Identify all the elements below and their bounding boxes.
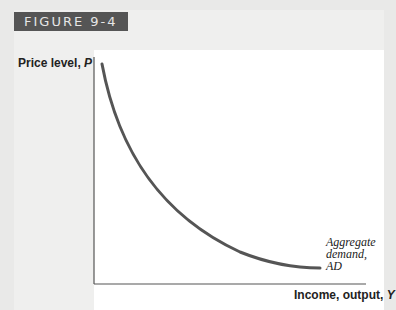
aggregate-demand-curve (102, 64, 320, 268)
curve-label-line: AD (326, 260, 376, 272)
x-axis-label: Income, output, Y (294, 288, 395, 302)
curve-label: Aggregate demand, AD (326, 236, 376, 272)
y-axis-label: Price level, P (18, 56, 92, 70)
